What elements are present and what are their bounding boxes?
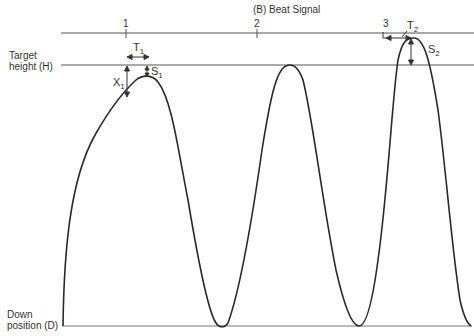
s1-label: S1 — [151, 65, 163, 80]
beat-marker-2: 2 — [254, 18, 260, 30]
beat-signal-diagram — [0, 0, 474, 336]
t1-label: T1 — [133, 41, 144, 56]
beat-marker-3: 3 — [383, 18, 389, 30]
down-position-label-line2: position (D) — [7, 320, 58, 332]
s2-label: S2 — [428, 43, 440, 58]
beat-marker-1: 1 — [123, 18, 129, 30]
x1-arrow — [125, 66, 130, 97]
diagram-title: (B) Beat Signal — [253, 4, 320, 16]
t2-label: T2 — [407, 19, 418, 34]
target-height-label-line2: height (H) — [9, 61, 53, 73]
s2-arrow — [409, 39, 414, 65]
x1-label: X1 — [113, 76, 125, 91]
